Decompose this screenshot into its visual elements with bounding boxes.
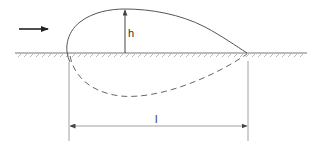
length-label: l <box>155 113 157 125</box>
height-label: h <box>128 27 134 39</box>
height-dimension: h <box>125 10 134 53</box>
diagram-canvas: h l <box>0 0 319 149</box>
ground-hatching <box>18 54 303 57</box>
ground-line <box>15 53 307 57</box>
lower-profile-dashed-curve <box>70 54 247 96</box>
upper-profile-curve <box>67 9 247 62</box>
length-dimension: l <box>70 113 247 126</box>
